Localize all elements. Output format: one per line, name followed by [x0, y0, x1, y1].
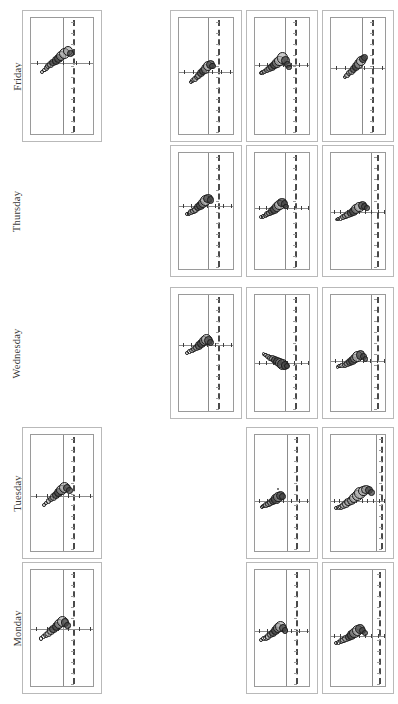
dashed-reference-line: [296, 572, 298, 684]
axis-minor-tick: [71, 132, 74, 133]
axis-minor-tick: [377, 640, 380, 641]
axis-minor-tick: [374, 398, 377, 399]
axis-minor-tick: [374, 409, 377, 410]
axis-minor-tick: [216, 168, 219, 169]
axis-minor-tick: [294, 527, 297, 528]
axis-minor-tick: [374, 332, 377, 333]
dashed-reference-line: [73, 572, 75, 684]
axis-minor-tick: [294, 596, 297, 597]
axis-line-vertical: [362, 18, 363, 134]
panel-monday-col-1[interactable]: [22, 562, 102, 694]
axis-minor-tick: [216, 44, 219, 45]
axis-minor-tick: [293, 88, 296, 89]
axis-minor-tick: [379, 516, 382, 517]
axis-minor-tick: [293, 321, 296, 322]
panel-monday-col-3[interactable]: [246, 562, 318, 694]
panel-thursday-col-4[interactable]: [322, 145, 394, 277]
dashed-reference-line: [377, 155, 379, 267]
axis-minor-tick: [293, 168, 296, 169]
axis-minor-tick: [370, 88, 373, 89]
axis-line-vertical: [376, 435, 377, 551]
axis-minor-tick: [216, 66, 219, 67]
plot-area: [330, 294, 386, 412]
axis-minor-tick: [71, 110, 74, 111]
axis-minor-tick: [293, 157, 296, 158]
axis-minor-tick: [216, 409, 219, 410]
panel-friday-col-1[interactable]: [22, 10, 102, 142]
axis-minor-tick: [71, 472, 74, 473]
axis-minor-tick: [71, 640, 74, 641]
axis-minor-tick: [374, 321, 377, 322]
axis-minor-tick: [374, 245, 377, 246]
axis-minor-tick: [293, 132, 296, 133]
axis-minor-tick: [216, 132, 219, 133]
data-point-bubble: [284, 363, 290, 369]
axis-minor-tick: [293, 234, 296, 235]
axis-minor-tick: [379, 472, 382, 473]
axis-minor-tick: [374, 256, 377, 257]
axis-minor-tick: [294, 505, 297, 506]
axis-minor-tick: [370, 22, 373, 23]
panel-thursday-col-2[interactable]: [170, 145, 242, 277]
axis-minor-tick: [379, 439, 382, 440]
panel-wednesday-col-2[interactable]: [170, 287, 242, 419]
axis-minor-tick: [374, 267, 377, 268]
row-strip-label-text: Monday: [12, 610, 23, 646]
dashed-reference-line: [296, 437, 298, 549]
plot-area: [30, 434, 94, 552]
axis-minor-tick: [294, 684, 297, 685]
axis-minor-tick: [293, 365, 296, 366]
axis-minor-tick: [379, 461, 382, 462]
panel-wednesday-col-3[interactable]: [246, 287, 318, 419]
axis-minor-tick: [370, 121, 373, 122]
axis-minor-tick: [71, 121, 74, 122]
axis-minor-tick: [71, 596, 74, 597]
axis-minor-tick: [379, 527, 382, 528]
plot-area: [254, 294, 310, 412]
panel-monday-col-4[interactable]: [322, 562, 394, 694]
panel-thursday-col-3[interactable]: [246, 145, 318, 277]
axis-minor-tick: [71, 651, 74, 652]
axis-minor-tick: [294, 461, 297, 462]
panel-wednesday-col-4[interactable]: [322, 287, 394, 419]
axis-minor-tick: [216, 310, 219, 311]
axis-minor-tick: [294, 450, 297, 451]
axis-minor-tick: [294, 640, 297, 641]
axis-minor-tick: [293, 33, 296, 34]
panel-tuesday-col-3[interactable]: [246, 427, 318, 559]
axis-minor-tick: [379, 549, 382, 550]
axis-line-horizontal: [330, 501, 386, 502]
panel-friday-col-2[interactable]: [170, 10, 242, 142]
axis-minor-tick: [294, 574, 297, 575]
axis-minor-tick: [294, 494, 297, 495]
axis-minor-tick: [379, 538, 382, 539]
panel-tuesday-col-1[interactable]: [22, 427, 102, 559]
axis-minor-tick: [293, 99, 296, 100]
axis-minor-tick: [374, 168, 377, 169]
axis-minor-tick: [293, 22, 296, 23]
axis-minor-tick: [293, 387, 296, 388]
panel-friday-col-4[interactable]: [322, 10, 394, 142]
axis-minor-tick: [71, 483, 74, 484]
data-point-bubble: [207, 196, 214, 203]
axis-minor-tick: [377, 629, 380, 630]
panel-tuesday-col-4[interactable]: [322, 427, 394, 559]
axis-minor-tick: [374, 310, 377, 311]
axis-minor-tick: [294, 651, 297, 652]
axis-minor-tick: [374, 157, 377, 158]
dashed-reference-line: [73, 20, 75, 132]
axis-line-vertical: [208, 18, 209, 134]
axis-minor-tick: [370, 66, 373, 67]
axis-minor-tick: [294, 538, 297, 539]
data-point-dot: [277, 488, 278, 489]
axis-minor-tick: [374, 234, 377, 235]
axis-minor-tick: [370, 55, 373, 56]
data-point-bubble: [364, 205, 370, 211]
row-strip-label-text: Friday: [12, 62, 23, 91]
data-point-bubble: [361, 54, 368, 61]
axis-minor-tick: [370, 110, 373, 111]
axis-minor-tick: [293, 190, 296, 191]
axis-minor-tick: [216, 321, 219, 322]
panel-friday-col-3[interactable]: [246, 10, 318, 142]
axis-line-vertical: [287, 435, 288, 551]
